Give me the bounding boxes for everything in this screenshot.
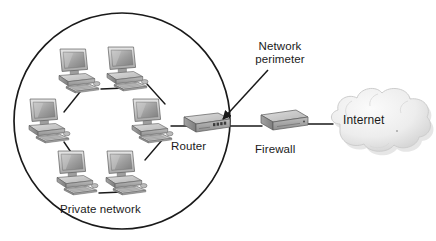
computer-node-5 xyxy=(57,151,98,195)
computer-node-1 xyxy=(59,49,100,93)
network-perimeter-arrow xyxy=(223,70,268,119)
router-label: Router xyxy=(171,140,206,153)
router-icon xyxy=(184,113,230,132)
link-pc3-pc1 xyxy=(64,92,80,112)
network-diagram: Router Firewall Internet Private network… xyxy=(0,0,436,241)
internet-label: Internet xyxy=(343,114,385,127)
firewall-label: Firewall xyxy=(255,143,295,156)
computer-node-2 xyxy=(107,47,148,91)
network-perimeter-label-line1: Network xyxy=(240,40,320,53)
private-network-label: Private network xyxy=(60,203,141,216)
computer-node-3 xyxy=(29,99,70,143)
computer-node-6 xyxy=(106,151,147,195)
firewall-icon xyxy=(261,110,308,130)
network-perimeter-label-line2: perimeter xyxy=(240,53,320,66)
network-perimeter-label: Network perimeter xyxy=(240,40,320,66)
computer-node-4 xyxy=(132,99,173,143)
network-links xyxy=(64,84,333,193)
